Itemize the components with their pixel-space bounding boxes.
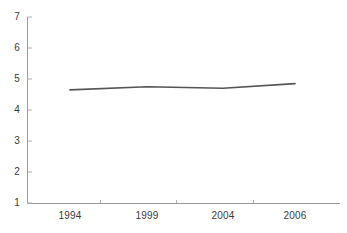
x-tick-label-2004: 2004 [203,210,243,221]
line-chart: 7 6 5 4 3 2 1 1994 1999 2004 2006 [0,0,347,233]
x-axis-ticks [101,200,254,203]
y-tick-label-7: 7 [6,11,20,22]
y-tick-label-6: 6 [6,42,20,53]
y-axis-ticks [28,17,33,203]
y-tick-label-2: 2 [6,166,20,177]
chart-plot-area [0,0,347,233]
data-series-line [70,84,295,90]
y-tick-label-1: 1 [6,197,20,208]
y-tick-label-5: 5 [6,73,20,84]
y-tick-label-4: 4 [6,104,20,115]
x-tick-label-2006: 2006 [275,210,315,221]
x-tick-label-1999: 1999 [127,210,167,221]
x-tick-label-1994: 1994 [50,210,90,221]
y-tick-label-3: 3 [6,135,20,146]
